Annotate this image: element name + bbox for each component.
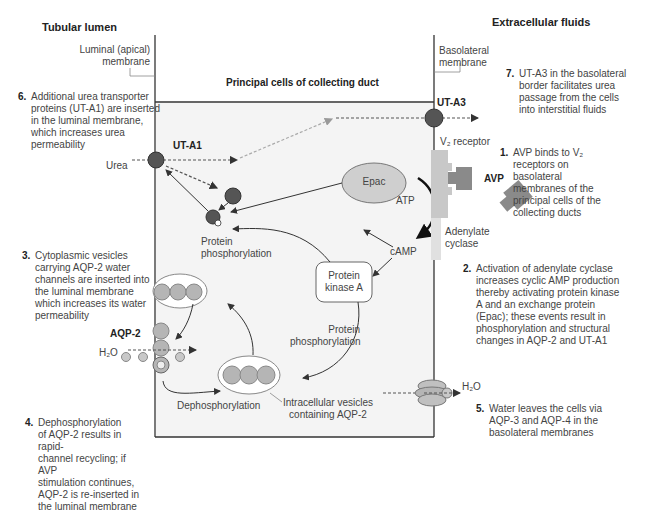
aqp2-channel bbox=[153, 323, 169, 339]
intracellular-vesicles-label: Intracellular vesicles containing AQP-2 bbox=[280, 397, 376, 421]
epac-label: Epac bbox=[344, 176, 404, 188]
note-7: 7. UT-A3 in the basolateral border facil… bbox=[506, 68, 646, 116]
ut-a3-transporter bbox=[425, 109, 443, 127]
ut-a1-label: UT-A1 bbox=[173, 140, 202, 152]
pka-label: Protein kinase A bbox=[316, 270, 372, 294]
note-1: 1. AVP binds to V₂ receptors on basolate… bbox=[500, 147, 645, 219]
ut-a3-label: UT-A3 bbox=[437, 97, 466, 109]
cell-interior bbox=[156, 103, 434, 437]
note-5: 5. Water leaves the cells via AQP-3 and … bbox=[476, 403, 626, 439]
note-4: 4. Dephosphorylation of AQP-2 results in… bbox=[25, 417, 145, 513]
tubular-lumen-header: Tubular lumen bbox=[42, 21, 117, 33]
basolateral-membrane-label: Basolateral membrane bbox=[439, 45, 489, 69]
adenylate-cyclase-label: Adenylate cyclase bbox=[445, 226, 489, 250]
protein-phosphorylation-label-2: Protein phosphorylation bbox=[290, 324, 360, 348]
extracellular-fluids-header: Extracellular fluids bbox=[492, 16, 590, 28]
h2o-left-label: H₂O bbox=[99, 347, 118, 359]
luminal-membrane-label: Luminal (apical) membrane bbox=[60, 44, 150, 68]
note-3: 3. Cytoplasmic vesicles carrying AQP-2 w… bbox=[22, 250, 152, 322]
aqp2-label: AQP-2 bbox=[110, 328, 141, 340]
atp-label: ATP bbox=[396, 195, 415, 207]
dephosphorylation-label: Dephosphorylation bbox=[177, 400, 260, 412]
ut-a1-vesicle bbox=[225, 188, 241, 204]
note-6: 6. Additional urea transporter proteins … bbox=[18, 91, 168, 151]
principal-cells-header: Principal cells of collecting duct bbox=[226, 77, 379, 88]
urea-label: Urea bbox=[106, 160, 128, 172]
note-2: 2. Activation of adenylate cyclase incre… bbox=[463, 263, 648, 347]
camp-label: cAMP bbox=[390, 246, 417, 258]
protein-phosphorylation-label-1: Protein phosphorylation bbox=[201, 236, 272, 260]
v2-receptor-label: V₂ receptor bbox=[440, 136, 490, 148]
h2o-right-label: H₂O bbox=[462, 381, 481, 393]
ut-a1-transporter bbox=[148, 152, 164, 168]
